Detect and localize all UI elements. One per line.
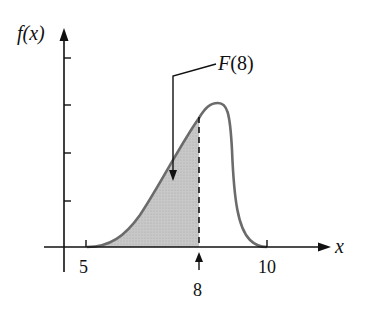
density-diagram: f(x) x 5 10 8 F(8) xyxy=(0,0,365,309)
y-axis-label: f(x) xyxy=(17,22,45,45)
x-axis-label: x xyxy=(334,235,344,257)
y-ticks xyxy=(64,58,71,201)
tick-label-10: 10 xyxy=(258,257,276,277)
marker-label-8: 8 xyxy=(193,280,202,300)
marker-8-arrow-icon xyxy=(195,252,203,262)
annotation-label: F(8) xyxy=(217,52,254,75)
x-axis-arrow-icon xyxy=(318,243,331,252)
y-axis-arrow-icon xyxy=(60,28,69,41)
tick-label-5: 5 xyxy=(79,257,88,277)
shaded-area-F8 xyxy=(87,118,199,247)
